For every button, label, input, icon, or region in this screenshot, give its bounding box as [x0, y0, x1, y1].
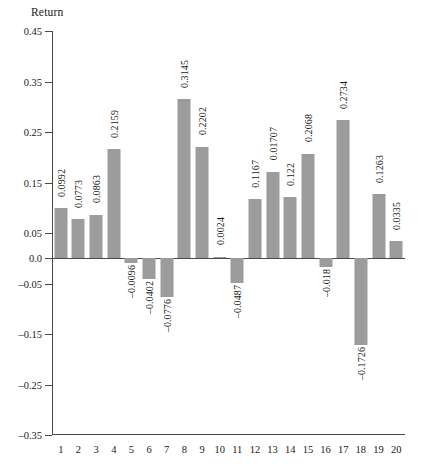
bar-value-label: 0.0773 [73, 180, 84, 208]
x-axis-tick-label: 10 [214, 444, 225, 455]
bar [196, 147, 209, 258]
x-axis-tick-label: 9 [199, 444, 204, 455]
y-axis-tick [45, 435, 52, 436]
bar-value-label: 0.3145 [179, 60, 190, 88]
x-axis-tick-label: 20 [391, 444, 402, 455]
x-axis-tick-label: 5 [129, 444, 134, 455]
x-axis-tick-label: 12 [250, 444, 261, 455]
y-axis-tick [45, 183, 52, 184]
bar-value-label: 0.0863 [91, 175, 102, 203]
bar [248, 199, 261, 258]
bar [143, 258, 156, 278]
y-axis-tick-label: 0.15 [24, 177, 42, 188]
y-axis-title: Return [31, 6, 64, 18]
y-axis-tick [45, 334, 52, 335]
x-axis-tick-label: 11 [232, 444, 242, 455]
bar-slot: 0.002410 [211, 31, 229, 435]
bar-slot: –0.07767 [158, 31, 176, 435]
y-axis-tick-label: –0.25 [18, 379, 42, 390]
return-bar-chart: Return 0.099210.077320.086330.21594–0.00… [0, 0, 421, 471]
bar [284, 197, 297, 259]
x-axis-tick-label: 4 [111, 444, 116, 455]
bar-slot: 0.12214 [281, 31, 299, 435]
y-axis-tick-label: 0.05 [24, 228, 42, 239]
bar [178, 99, 191, 258]
bar-slot: 0.126319 [370, 31, 388, 435]
bar [372, 194, 385, 258]
bar-slot: –0.01816 [317, 31, 335, 435]
bar [213, 257, 226, 258]
bar [231, 258, 244, 283]
y-axis-tick-label: 0.25 [24, 127, 42, 138]
bar [390, 241, 403, 258]
bar-slot: 0.206815 [299, 31, 317, 435]
x-axis-tick-label: 17 [338, 444, 349, 455]
bar-value-label: 0.0335 [391, 202, 402, 230]
x-axis-tick-label: 1 [58, 444, 63, 455]
bar-slot: 0.08633 [87, 31, 105, 435]
bar-value-label: –0.0776 [161, 299, 172, 332]
bar [301, 154, 314, 258]
y-axis-tick-label: 0.35 [24, 76, 42, 87]
x-axis-tick-label: 14 [285, 444, 296, 455]
x-axis-tick-label: 6 [146, 444, 151, 455]
bar [107, 149, 120, 258]
bar-value-label: –0.0487 [232, 285, 243, 318]
y-axis-tick-label: –0.35 [18, 430, 42, 441]
bar-value-label: –0.0096 [126, 265, 137, 298]
y-axis-tick [45, 82, 52, 83]
y-axis-tick [45, 132, 52, 133]
bar-value-label: 0.0992 [55, 169, 66, 197]
bar-slot: 0.033520 [387, 31, 405, 435]
x-axis-tick-label: 19 [373, 444, 384, 455]
bar-slot: 0.116712 [246, 31, 264, 435]
bar [319, 258, 332, 267]
bar-value-label: –0.1726 [355, 347, 366, 380]
bar [125, 258, 138, 263]
bar-value-label: 0.1167 [249, 160, 260, 188]
y-axis-tick [45, 258, 52, 259]
bar-value-label: 0.2734 [338, 81, 349, 109]
y-axis-tick [45, 385, 52, 386]
x-axis-tick-label: 13 [267, 444, 278, 455]
y-axis-tick [45, 31, 52, 32]
bar-value-label: –0.018 [320, 269, 331, 297]
bar-slot: 0.21594 [105, 31, 123, 435]
bar-slot: 0.07732 [70, 31, 88, 435]
bar [54, 208, 67, 258]
bar-value-label: 0.2159 [108, 110, 119, 138]
bar-slot: 0.09921 [52, 31, 70, 435]
x-axis-tick-label: 3 [93, 444, 98, 455]
bar-slot: 0.0170713 [264, 31, 282, 435]
bars-container: 0.099210.077320.086330.21594–0.00965–0.0… [52, 31, 405, 435]
bar-value-label: 0.1263 [373, 155, 384, 183]
x-axis-tick-label: 15 [303, 444, 314, 455]
bar-slot: 0.273417 [334, 31, 352, 435]
x-axis-tick-label: 8 [182, 444, 187, 455]
bar [354, 258, 367, 345]
y-axis-tick-label: –0.05 [18, 278, 42, 289]
bar-value-label: 0.2068 [302, 114, 313, 142]
bar [72, 219, 85, 258]
y-axis-tick-label: 0.45 [24, 26, 42, 37]
y-axis-tick-label: 0.0 [29, 253, 42, 264]
plot-area: 0.099210.077320.086330.21594–0.00965–0.0… [52, 31, 405, 435]
x-axis-tick-label: 16 [320, 444, 331, 455]
bar [90, 215, 103, 259]
bar [160, 258, 173, 297]
bar-value-label: 0.01707 [267, 127, 278, 160]
bar-slot: –0.048711 [229, 31, 247, 435]
bar-slot: –0.04026 [140, 31, 158, 435]
bar-slot: 0.22029 [193, 31, 211, 435]
y-axis-tick [45, 284, 52, 285]
bar-slot: –0.172618 [352, 31, 370, 435]
bar-slot: 0.31458 [176, 31, 194, 435]
x-axis-tick-label: 7 [164, 444, 169, 455]
x-axis-tick-label: 18 [356, 444, 367, 455]
bar-value-label: –0.0402 [144, 281, 155, 314]
x-axis-tick-label: 2 [76, 444, 81, 455]
y-axis-tick-label: –0.15 [18, 329, 42, 340]
y-axis-tick [45, 233, 52, 234]
bar-slot: –0.00965 [123, 31, 141, 435]
bar-value-label: 0.0024 [214, 217, 225, 245]
